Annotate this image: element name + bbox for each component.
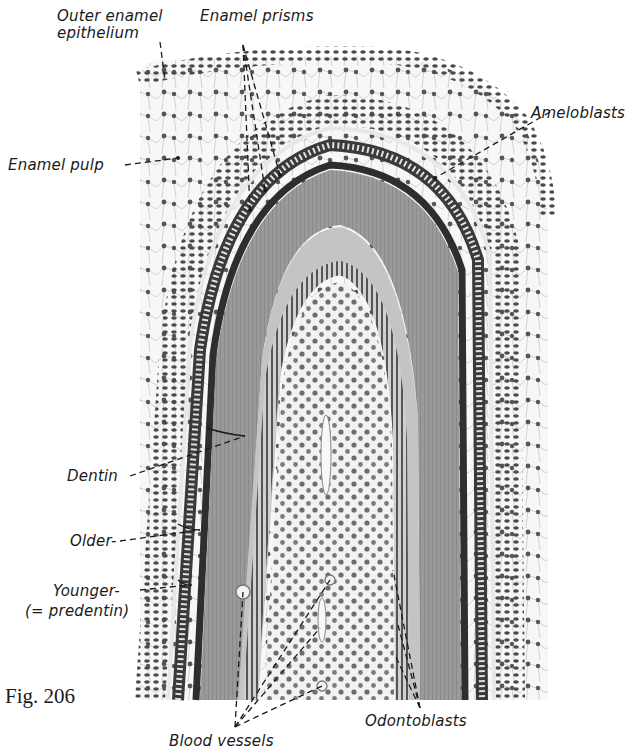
label-dentin: Dentin	[67, 468, 118, 485]
label-younger: Younger-	[53, 583, 120, 600]
label-odontoblasts: Odontoblasts	[365, 713, 467, 730]
figure-number: Fig. 206	[5, 684, 75, 709]
blood-vessel	[317, 681, 327, 691]
label-enamel-prisms: Enamel prisms	[200, 8, 314, 25]
label-outer-enamel-epithelium-line1: Outer enamel	[57, 8, 163, 25]
blood-vessel	[321, 415, 331, 495]
label-older: Older-	[70, 533, 117, 550]
label-enamel-pulp: Enamel pulp	[8, 157, 104, 174]
label-outer-enamel-epithelium-line2: epithelium	[57, 25, 163, 42]
label-predentin: (= predentin)	[25, 603, 129, 620]
label-ameloblasts: Ameloblasts	[531, 105, 625, 122]
label-blood-vessels: Blood vessels	[169, 733, 274, 750]
label-outer-enamel-epithelium: Outer enamel epithelium	[57, 8, 163, 42]
blood-vessel	[318, 598, 326, 642]
